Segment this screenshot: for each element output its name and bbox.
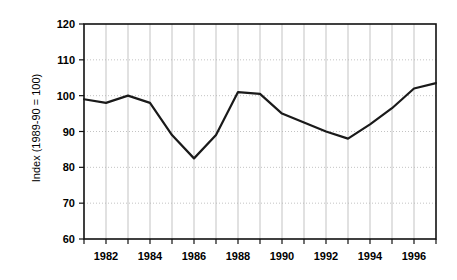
x-tick-label: 1984: [138, 250, 163, 262]
vertical-gridlines: [106, 24, 414, 239]
y-axis-tick-labels: 60708090100110120: [57, 18, 75, 245]
y-tick-label: 100: [57, 90, 75, 102]
y-tick-label: 60: [63, 233, 75, 245]
chart-plot-area: 60708090100110120 1982198419861988199019…: [0, 0, 457, 280]
x-tick-label: 1990: [270, 250, 294, 262]
y-tick-label: 110: [57, 54, 75, 66]
x-tick-label: 1988: [226, 250, 250, 262]
x-tick-label: 1996: [402, 250, 426, 262]
x-tick-label: 1982: [94, 250, 118, 262]
line-chart-figure: Index (1989-90 = 100) 60708090100110120 …: [0, 0, 457, 280]
x-axis-tick-labels: 19821984198619881990199219941996: [94, 250, 426, 262]
y-tick-label: 70: [63, 197, 75, 209]
x-tick-label: 1992: [314, 250, 338, 262]
x-tick-label: 1994: [358, 250, 383, 262]
y-tick-label: 90: [63, 126, 75, 138]
y-tick-label: 120: [57, 18, 75, 30]
x-tick-label: 1986: [182, 250, 206, 262]
y-tick-label: 80: [63, 161, 75, 173]
